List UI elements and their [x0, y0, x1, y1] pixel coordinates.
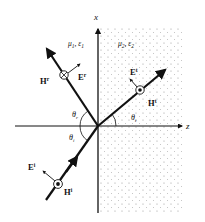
reflection-angle-label: θr: [72, 110, 78, 120]
incident-h-label: Hi: [64, 187, 73, 198]
incident-e-label: Ei: [28, 162, 36, 173]
z-axis-label: z: [185, 121, 190, 131]
incidence-angle-arc: [80, 126, 88, 141]
medium2-region: [99, 27, 182, 213]
medium1-label: μ1, ε1: [68, 39, 84, 49]
incident-direction-arrow: [66, 157, 77, 172]
reflected-e-label: Er: [78, 72, 87, 83]
incident-e-arrow: [43, 171, 55, 181]
x-axis-label: x: [93, 12, 98, 22]
incidence-angle-label: θi: [69, 133, 75, 143]
oblique-incidence-diagram: x z μ1, ε1 μ2, ε2 Er Hr Et Ht: [0, 0, 205, 222]
reflected-h-label: Hr: [40, 76, 50, 87]
reflection-angle-arc: [80, 111, 88, 126]
